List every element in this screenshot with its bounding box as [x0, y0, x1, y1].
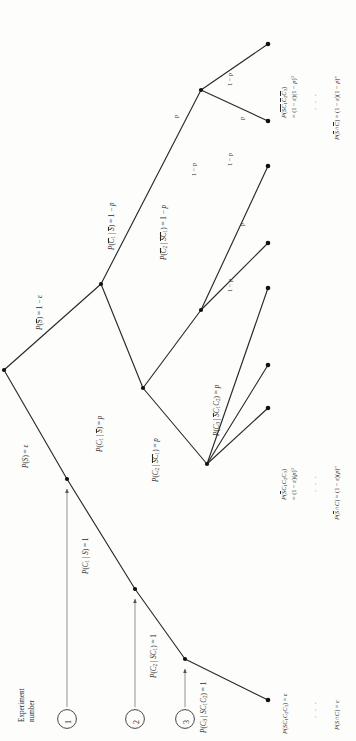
label-s-c1c2c3: P(C3 | SC1C2) = 1 — [200, 682, 208, 733]
edge-l3-b — [201, 90, 268, 121]
leaf-2 — [266, 119, 271, 124]
outcome-middle-line2: = (1 − ε)(p)3 — [290, 468, 297, 500]
outcome-top-general: P(S∩C) = (1 − ε)(1 − p)n — [333, 76, 340, 140]
leaf-4 — [266, 241, 271, 246]
label-sbar-c1-c2: P(C2 | SC1) = p — [152, 438, 160, 482]
node-sbar-c1-c2 — [205, 462, 209, 466]
leaf-6 — [266, 363, 271, 368]
experiment-number-caption-line2: number — [28, 700, 36, 722]
experiment-circle-2 — [126, 710, 145, 729]
node-sbar-c1bar — [199, 88, 203, 92]
edge-label-3: 1 − p — [226, 153, 233, 166]
experiment-circle-1 — [58, 710, 77, 729]
label-sbar-c1-c2bar: P(C2 | SC1) = 1 − p — [160, 205, 168, 260]
edge-sbar-c1bar — [101, 90, 201, 284]
label-s-c1: P(C1 | S) = 1 — [82, 538, 90, 574]
edge-l3-c — [201, 166, 268, 310]
label-sbar-c1bar: P(C1 | S) = 1 − p — [108, 202, 116, 250]
leaf-8 — [266, 698, 271, 703]
edge-s-c1c2 — [135, 589, 185, 659]
experiment-number-caption-line1: Experiment — [18, 688, 26, 722]
outcome-middle-general: P(S∩C) = (1 − ε)(p)n — [333, 466, 340, 520]
edge-root-s — [4, 370, 67, 479]
edge-l3-a — [201, 44, 268, 90]
label-s-c1c2: P(C2 | SC1) = 1 — [150, 634, 158, 678]
edge-label-4: p — [238, 223, 245, 226]
leaf-5 — [266, 286, 271, 291]
label-root-lower: P(S) = ε — [22, 445, 30, 468]
edge-l3-e — [207, 288, 268, 464]
outcome-bottom-general: P(S∩C) = ε — [333, 700, 340, 730]
experiment-number-2: 2 — [132, 720, 141, 724]
edge-label-5: 1 − p — [226, 279, 233, 292]
edge-sbar-c1-c2bar — [143, 310, 201, 388]
edge-root-sbar — [4, 284, 101, 370]
tree-edges — [4, 44, 268, 700]
outcome-top-line1: P(SC1C2C3) — [280, 87, 289, 118]
edge-s-c1 — [67, 479, 135, 589]
outcome-bottom: P(SC1C2C3) = ε — [281, 693, 289, 734]
ellipsis-top: · · · — [312, 92, 319, 110]
edge-label-6: 1 − p — [190, 163, 197, 176]
edge-label-7: p — [172, 115, 179, 118]
experiment-number-3: 3 — [182, 720, 191, 724]
edge-label-2: p — [238, 117, 245, 120]
leaf-3 — [266, 164, 271, 169]
edge-l3-d — [201, 243, 268, 310]
leaf-1 — [266, 42, 271, 47]
label-sbar-c1: P(C1 | S) = p — [96, 416, 104, 452]
node-sbar — [99, 282, 103, 286]
label-root-upper: P(S) = 1 − ε — [36, 295, 44, 330]
experiment-number-circles — [58, 710, 195, 729]
edge-s-c1c2c3 — [185, 659, 268, 700]
ellipsis-middle: · · · — [312, 474, 319, 492]
ellipsis-bottom: · · · — [312, 700, 319, 718]
leaf-7 — [266, 406, 271, 411]
node-sbar-c1 — [141, 386, 145, 390]
node-root — [2, 368, 6, 372]
probability-tree-svg — [0, 0, 356, 741]
node-s-c1c2 — [133, 587, 137, 591]
node-s-c1 — [65, 477, 69, 481]
experiment-number-1: 1 — [64, 720, 73, 724]
label-sbar-c1c2-c3: P(C3 | SC1C2) = p — [213, 385, 221, 436]
experiment-circle-3 — [176, 710, 195, 729]
outcome-top-line2: = (1 − ε)(1 − p)3 — [290, 76, 297, 118]
edge-sbar-c1 — [101, 284, 143, 388]
figure-canvas: 1 2 3 Experiment number P(S) = 1 − ε P(S… — [0, 0, 356, 741]
edge-label-1: 1 − p — [226, 73, 233, 86]
outcome-middle-line1: P(SC1C2C3) — [280, 469, 289, 500]
experiment-arrows — [67, 489, 185, 707]
node-sbar-c1-c2bar — [199, 308, 203, 312]
node-s-c1c2c3 — [183, 657, 187, 661]
